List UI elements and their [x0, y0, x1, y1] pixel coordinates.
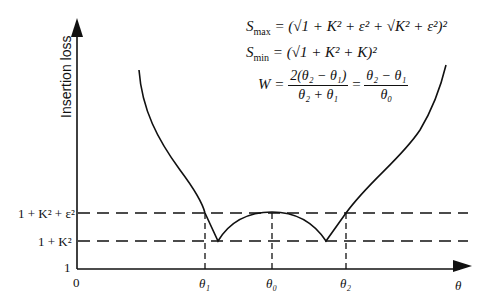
- smax-subscript: max: [254, 26, 271, 37]
- w-equals: =: [352, 76, 364, 92]
- w-fraction-1-numerator: 2(θ₂ − θ₁): [288, 68, 348, 86]
- y-tick-lower: 1 + K²: [38, 235, 72, 248]
- w-symbol: W =: [258, 76, 288, 92]
- smax-symbol: S: [246, 18, 254, 34]
- y-tick-upper: 1 + K² + ε²: [18, 207, 75, 220]
- w-fraction-1-denominator: θ₂ + θ₁: [298, 86, 338, 103]
- formula-w: W = 2(θ₂ − θ₁) θ₂ + θ₁ = θ₂ − θ₁ θ₀: [258, 68, 408, 103]
- w-fraction-1: 2(θ₂ − θ₁) θ₂ + θ₁: [288, 68, 348, 103]
- w-fraction-2-numerator: θ₂ − θ₁: [364, 68, 408, 86]
- smin-expression: = (√1 + K² + K)²: [269, 44, 377, 60]
- x-tick-theta0: θ₀: [266, 277, 277, 290]
- formula-smax: Smax = (√1 + K² + ε² + √K² + ε²)²: [246, 18, 447, 37]
- x-tick-theta2: θ₂: [340, 277, 351, 290]
- smin-subscript: min: [254, 52, 270, 63]
- x-tick-theta1: θ₁: [199, 277, 210, 290]
- y-tick-base: 1: [64, 261, 71, 274]
- formula-smin: Smin = (√1 + K² + K)²: [246, 44, 377, 63]
- x-axis-label: θ: [455, 279, 461, 292]
- smax-expression: = (√1 + K² + ε² + √K² + ε²)²: [271, 18, 447, 34]
- x-axis-arrow-icon: [453, 260, 472, 272]
- smin-symbol: S: [246, 44, 254, 60]
- w-fraction-2-denominator: θ₀: [380, 86, 392, 103]
- y-axis-label: Insertion loss: [58, 36, 74, 118]
- x-tick-origin: 0: [73, 276, 80, 289]
- w-fraction-2: θ₂ − θ₁ θ₀: [364, 68, 408, 103]
- y-axis-arrow-icon: [71, 18, 83, 37]
